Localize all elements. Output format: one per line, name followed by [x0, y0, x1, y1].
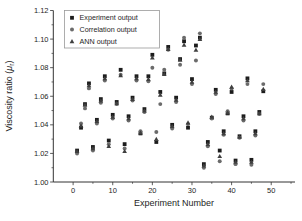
- marker-square: [218, 149, 222, 153]
- marker-circle: [70, 28, 74, 32]
- marker-circle: [198, 31, 202, 35]
- legend-label-ann: ANN output: [80, 37, 117, 46]
- marker-triangle: [154, 137, 159, 141]
- marker-square: [119, 68, 123, 72]
- y-axis-title-close: ): [4, 61, 14, 64]
- y-tick-label: 1.02: [34, 149, 49, 158]
- marker-square: [230, 90, 234, 94]
- marker-square: [186, 126, 190, 130]
- x-tick-label: 50: [267, 186, 275, 195]
- marker-triangle: [229, 85, 234, 89]
- marker-square: [123, 142, 127, 146]
- marker-square: [70, 16, 74, 20]
- marker-circle: [261, 82, 265, 86]
- y-tick-label: 1.04: [34, 120, 49, 129]
- legend: Experiment output Correlation output ANN…: [65, 11, 160, 49]
- marker-triangle: [186, 120, 191, 124]
- series-square: [75, 36, 265, 166]
- scatter-plot: 010203040501.001.021.041.061.081.101.12 …: [0, 0, 302, 221]
- marker-circle: [158, 102, 162, 106]
- legend-label-correlation: Correlation output: [80, 25, 137, 34]
- y-axis-title-text: Viscosity ratio (: [4, 71, 14, 132]
- marker-circle: [178, 63, 182, 67]
- series-circle: [75, 31, 265, 169]
- y-axis-title: Viscosity ratio (μr): [4, 61, 15, 132]
- marker-circle: [182, 36, 186, 40]
- marker-triangle: [122, 149, 127, 153]
- y-tick-label: 1.10: [34, 35, 49, 44]
- marker-circle: [218, 159, 222, 163]
- y-tick-label: 1.00: [34, 178, 49, 187]
- marker-triangle: [261, 87, 266, 91]
- marker-circle: [150, 66, 154, 70]
- legend-label-experiment: Experiment output: [80, 13, 138, 22]
- x-tick-label: 30: [188, 186, 196, 195]
- x-tick-label: 40: [227, 186, 235, 195]
- marker-circle: [162, 68, 166, 72]
- marker-circle: [245, 82, 249, 86]
- y-tick-label: 1.06: [34, 92, 49, 101]
- y-tick-label: 1.08: [34, 63, 49, 72]
- scatter-chart-figure: 010203040501.001.021.041.061.081.101.12 …: [0, 0, 302, 221]
- x-tick-label: 0: [71, 186, 75, 195]
- marker-circle: [154, 130, 158, 134]
- series-triangle: [75, 37, 266, 168]
- marker-square: [107, 139, 111, 143]
- x-tick-label: 10: [109, 186, 117, 195]
- x-axis-title: Experiment Number: [134, 198, 214, 208]
- marker-triangle: [217, 154, 222, 158]
- marker-circle: [194, 59, 198, 63]
- x-tick-label: 20: [148, 186, 156, 195]
- marker-circle: [83, 106, 87, 110]
- data-points: [75, 31, 266, 169]
- marker-triangle: [194, 47, 199, 51]
- marker-square: [194, 44, 198, 48]
- y-tick-label: 1.12: [34, 6, 49, 15]
